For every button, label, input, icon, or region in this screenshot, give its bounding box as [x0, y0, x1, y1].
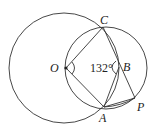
geometry-figure: O C B A P 132°	[0, 0, 156, 137]
label-c: C	[100, 14, 108, 26]
angle-mark-o	[72, 62, 75, 74]
label-p: P	[137, 101, 144, 113]
angle-label: 132°	[90, 62, 113, 74]
label-a: A	[99, 112, 106, 124]
label-o: O	[50, 62, 59, 74]
label-b: B	[123, 61, 130, 73]
center-dot-o	[64, 66, 67, 69]
figure-drawing	[0, 0, 156, 137]
